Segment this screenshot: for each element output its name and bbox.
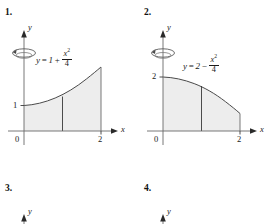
- equation-2-frac-den: 4: [209, 66, 219, 75]
- x-axis-label-1: x: [121, 124, 125, 134]
- equation-2-fraction: x24: [209, 56, 219, 75]
- x-axis-arrowhead-1: [111, 128, 118, 133]
- y-axis-arrowhead-2: [160, 30, 166, 38]
- graph-2: [139, 0, 278, 180]
- graph-3: [0, 180, 139, 224]
- y-tick-label-2: 2: [152, 71, 156, 81]
- origin-label-1: 0: [15, 134, 19, 144]
- equation-2-operator: −: [200, 61, 208, 71]
- y-axis-label-2: y: [167, 22, 171, 32]
- equation-1-frac-exp: 2: [67, 47, 70, 53]
- graph-4: [139, 180, 278, 224]
- origin-label-2: 0: [154, 134, 158, 144]
- x-tick-label-2: 2: [237, 134, 241, 144]
- x-tick-label-1: 2: [98, 134, 102, 144]
- problem-panel-3: 3. y: [0, 180, 139, 224]
- y-axis-arrowhead-3: [21, 214, 27, 222]
- x-axis-arrowhead-2: [250, 128, 257, 133]
- y-axis-label-1: y: [28, 22, 32, 32]
- equation-2-frac-exp: 2: [214, 53, 217, 59]
- equation-1: y=1+x24: [36, 50, 72, 69]
- graph-1: [0, 0, 139, 180]
- equation-1-operator: +: [53, 55, 61, 65]
- problem-panel-1: 1. y=1+x24 y x 0 2 1: [0, 0, 139, 180]
- problem-panel-2: 2. y=2−x24 y x 0 2 2: [139, 0, 278, 180]
- y-axis-arrowhead-1: [21, 30, 27, 38]
- y-tick-label-1: 1: [13, 100, 17, 110]
- equation-2: y=2−x24: [183, 56, 219, 75]
- x-axis-label-2: x: [260, 124, 264, 134]
- equation-1-fraction: x24: [62, 50, 72, 69]
- equation-1-frac-den: 4: [62, 60, 72, 69]
- y-axis-arrowhead-4: [160, 214, 166, 222]
- problem-panel-4: 4. y: [139, 180, 278, 224]
